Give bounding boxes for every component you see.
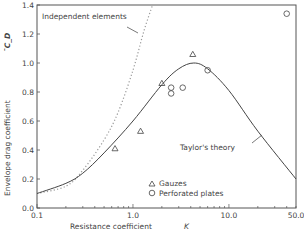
data-markers <box>112 11 289 151</box>
independent-elements-curve <box>37 5 153 194</box>
y-axis-label: Envelope drag coefficient <box>3 100 12 196</box>
x-tick-label: 1.0 <box>127 211 139 220</box>
y-tick-label: 0.4 <box>22 146 34 155</box>
y-tick-label: 0.6 <box>22 117 34 126</box>
x-tick-label: 0.1 <box>31 211 43 220</box>
chart: 0.00.20.40.60.81.01.21.4 0.11.010.050.0 … <box>0 0 304 235</box>
perforated-plate-point <box>284 11 290 17</box>
perforated-plate-point <box>168 91 174 97</box>
x-tick-label: 10.0 <box>221 211 238 220</box>
legend-perforated-plates: Perforated plates <box>159 189 224 198</box>
legend-gauzes: Gauzes <box>159 179 187 188</box>
y-axis-symbol: ¯C_D <box>3 33 12 52</box>
x-tick-label: 50.0 <box>288 211 304 220</box>
annotation-arrow-taylor <box>252 135 262 143</box>
circle-icon <box>149 190 155 196</box>
annotation-arrow-independent <box>127 27 138 33</box>
gauze-point <box>190 51 196 56</box>
legend: Gauzes Perforated plates <box>149 179 224 198</box>
y-tick-label: 1.4 <box>22 1 34 10</box>
perforated-plate-point <box>180 85 186 91</box>
y-tick-label: 0.2 <box>22 175 34 184</box>
y-tick-label: 1.2 <box>22 30 34 39</box>
x-axis-ticks: 0.11.010.050.0 <box>31 204 304 220</box>
x-axis-symbol: K <box>184 222 190 231</box>
taylor-theory-curve <box>37 63 296 194</box>
annotation-independent-elements: Independent elements <box>42 12 127 21</box>
y-tick-label: 0.8 <box>22 88 34 97</box>
x-axis-label: Resistance coefficient <box>70 222 152 231</box>
y-tick-label: 1.0 <box>22 59 34 68</box>
perforated-plate-point <box>168 85 174 91</box>
triangle-icon <box>149 181 155 186</box>
annotation-taylor-theory: Taylor's theory <box>179 143 235 152</box>
gauze-point <box>138 128 144 133</box>
gauze-point <box>112 146 118 151</box>
